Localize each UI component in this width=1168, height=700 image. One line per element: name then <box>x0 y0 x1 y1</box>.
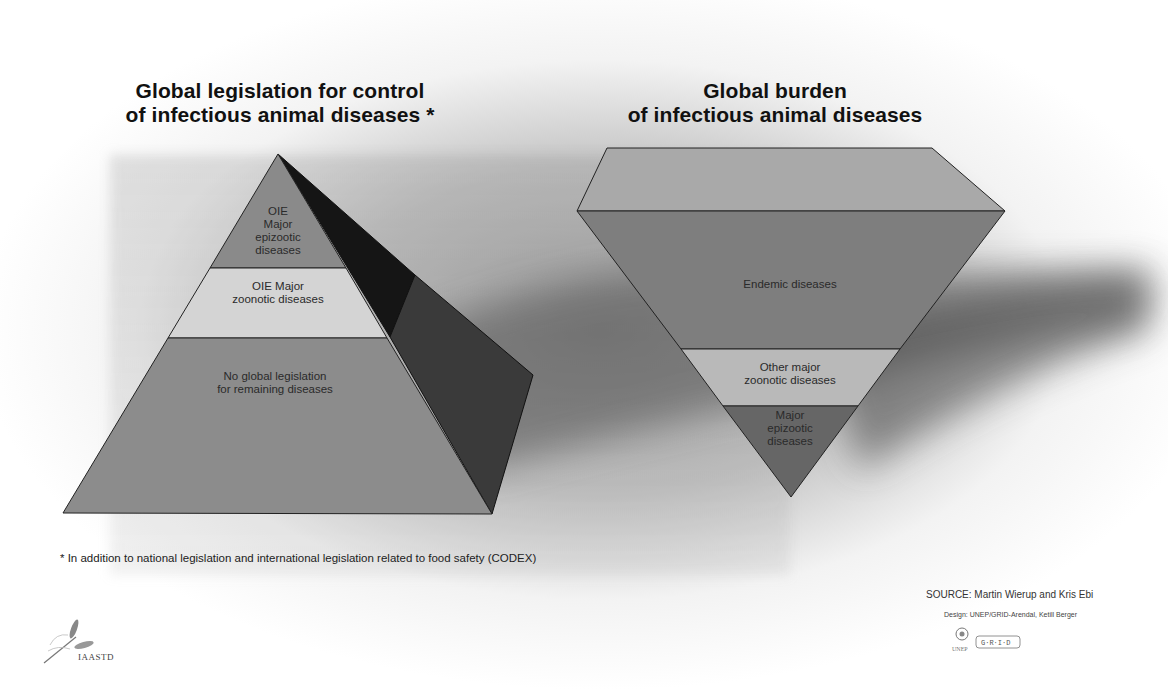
left-layer-bottom-label: No global legislation for remaining dise… <box>200 370 350 396</box>
right-pyramid-lid <box>577 148 1005 211</box>
label-line: Endemic diseases <box>720 278 860 291</box>
design-credit: Design: UNEP/GRID-Arendal, Ketill Berger <box>944 611 1077 618</box>
label-line: Other major <box>730 361 850 374</box>
wheat-ear-icon <box>74 640 95 651</box>
left-title-line2: of infectious animal diseases * <box>95 103 465 127</box>
source-credit: SOURCE: Martin Wierup and Kris Ebi <box>926 589 1093 600</box>
left-layer-top-label: OIE Major epizootic diseases <box>238 205 318 257</box>
label-line: zoonotic diseases <box>218 293 338 306</box>
left-layer-middle-label: OIE Major zoonotic diseases <box>218 280 338 306</box>
iaastd-logo-text: IAASTD <box>78 652 114 662</box>
right-layer-bottom-label: Major epizootic diseases <box>750 409 830 448</box>
label-line: zoonotic diseases <box>730 374 850 387</box>
label-line: OIE Major <box>218 280 338 293</box>
left-chart-title: Global legislation for control of infect… <box>95 79 465 127</box>
label-line: Major <box>238 218 318 231</box>
label-line: epizootic <box>238 231 318 244</box>
label-line: Major <box>750 409 830 422</box>
unep-logo-text: UNEP <box>952 646 968 652</box>
label-line: for remaining diseases <box>200 383 350 396</box>
label-line: OIE <box>238 205 318 218</box>
left-title-line1: Global legislation for control <box>95 79 465 103</box>
wheat-stalk-icon <box>44 637 76 663</box>
globe-lines-icon <box>48 635 70 651</box>
label-line: diseases <box>238 244 318 257</box>
label-line: No global legislation <box>200 370 350 383</box>
wheat-ear-icon <box>68 619 80 640</box>
right-layer-middle-label: Other major zoonotic diseases <box>730 361 850 387</box>
right-layer-top-label: Endemic diseases <box>720 278 860 291</box>
right-title-line1: Global burden <box>565 79 985 103</box>
label-line: diseases <box>750 435 830 448</box>
unep-grid-logo: UNEP G·R·I·D <box>948 625 1028 653</box>
right-title-line2: of infectious animal diseases <box>565 103 985 127</box>
label-line: epizootic <box>750 422 830 435</box>
right-chart-title: Global burden of infectious animal disea… <box>565 79 985 127</box>
footnote: * In addition to national legislation an… <box>60 552 536 564</box>
grid-logo-text: G·R·I·D <box>981 639 1010 647</box>
